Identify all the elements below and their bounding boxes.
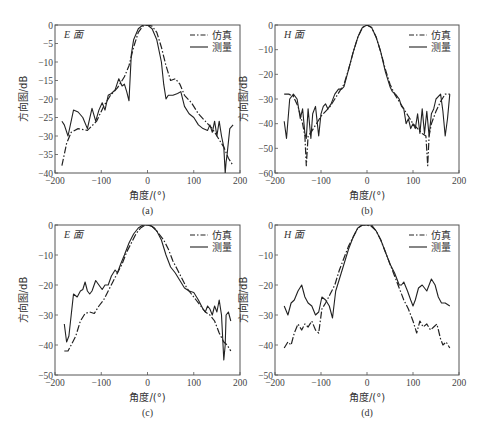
y-tick-label: −20 [258,281,273,291]
y-tick-label: −5 [43,39,53,49]
y-tick-label: −15 [38,76,53,86]
y-tick-label: −10 [38,58,53,68]
y-tick-label: −30 [258,95,273,105]
y-tick-label: −35 [38,150,53,160]
legend-label: 仿真 [212,229,232,241]
plane-label: H 面 [283,29,306,40]
y-tick-label: −20 [38,95,53,105]
series-simulated-line [62,25,233,166]
y-tick-label: −40 [38,341,53,351]
x-tick-label: −100 [91,176,111,186]
legend-label: 测量 [431,241,451,253]
y-axis-label: 方向图/dB [237,277,249,324]
y-tick-label: −40 [38,169,53,179]
chart-panel-b: −200−10001002000−10−20−30−40−50−60角度/(°)… [237,21,466,218]
y-tick-label: −10 [258,45,273,55]
x-tick-label: 200 [233,176,248,186]
x-tick-label: 0 [365,378,370,388]
x-tick-label: 0 [365,176,370,186]
plane-label: E 面 [63,29,85,40]
y-axis-label: 方向图/dB [17,277,29,324]
y-tick-label: −30 [38,132,53,142]
series-measured-line [284,25,450,139]
chart-panel-a: −200−10001002000−5−10−15−20−25−30−35−40角… [17,21,247,218]
legend-label: 测量 [431,41,451,53]
x-tick-label: 100 [406,378,421,388]
y-tick-label: −30 [258,311,273,321]
legend-label: 仿真 [431,229,451,241]
y-tick-label: −20 [38,281,53,291]
y-tick-label: −30 [38,311,53,321]
legend-label: 仿真 [431,29,451,41]
y-tick-label: −10 [258,251,273,261]
series-simulated-line [64,225,231,351]
x-axis-label: 角度/(°) [129,391,165,403]
x-tick-label: 0 [145,378,150,388]
y-tick-label: 0 [268,21,273,31]
panel-caption: (c) [142,407,153,419]
x-tick-label: 200 [452,176,467,186]
y-tick-label: −50 [258,371,273,381]
x-axis-label: 角度/(°) [349,189,385,201]
panel-caption: (b) [361,205,373,217]
x-axis-label: 角度/(°) [129,189,165,201]
x-axis-label: 角度/(°) [349,391,385,403]
legend: 仿真测量 [409,29,451,53]
y-tick-label: −40 [258,341,273,351]
x-tick-label: 200 [233,378,248,388]
series-measured-line [284,225,450,318]
plane-label: E 面 [63,229,85,240]
figure-canvas: −200−10001002000−5−10−15−20−25−30−35−40角… [0,0,487,433]
x-tick-label: −100 [91,378,111,388]
series-simulated-line [284,25,450,166]
y-tick-label: 0 [268,221,273,231]
x-tick-label: 0 [145,176,150,186]
legend: 仿真测量 [190,229,232,253]
legend-label: 测量 [212,41,232,53]
legend: 仿真测量 [409,229,451,253]
x-tick-label: 100 [406,176,421,186]
panel-caption: (a) [142,205,153,217]
series-simulated-line [284,225,450,348]
x-tick-label: 200 [452,378,467,388]
y-tick-label: −50 [258,144,273,154]
chart-panel-c: −200−10001002000−10−20−30−40−50角度/(°)(c)… [17,221,247,420]
y-tick-label: 0 [48,21,53,31]
y-tick-label: −60 [258,169,273,179]
legend-label: 测量 [212,241,232,253]
x-tick-label: 100 [187,176,202,186]
y-tick-label: 0 [48,221,53,231]
legend: 仿真测量 [190,29,232,53]
legend-label: 仿真 [212,29,232,41]
y-axis-label: 方向图/dB [237,76,249,123]
y-axis-label: 方向图/dB [17,76,29,123]
plane-label: H 面 [283,229,306,240]
x-tick-label: 100 [187,378,202,388]
chart-panel-d: −200−10001002000−10−20−30−40−50角度/(°)(d)… [237,221,466,420]
y-tick-label: −25 [38,113,53,123]
y-tick-label: −10 [38,251,53,261]
y-tick-label: −50 [38,371,53,381]
x-tick-label: −100 [311,176,331,186]
x-tick-label: −100 [311,378,331,388]
series-measured-line [64,225,231,360]
panel-caption: (d) [361,407,373,419]
y-tick-label: −20 [258,70,273,80]
y-tick-label: −40 [258,119,273,129]
